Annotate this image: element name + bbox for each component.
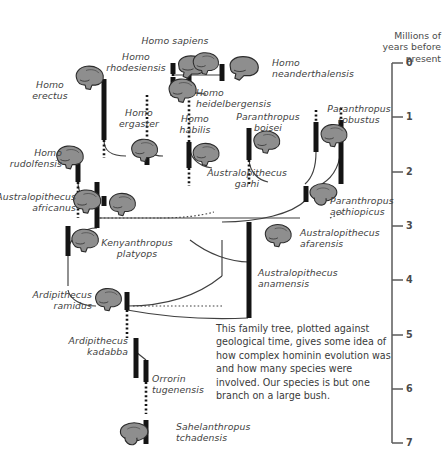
label-ardipithecus-kadabba: Ardipithecus kadabba <box>40 336 128 357</box>
skull-homo-ergaster <box>132 139 158 161</box>
label-australopithecus-garhi: Australopithecus garhi <box>196 168 298 189</box>
tick-label-1: 1 <box>406 111 413 122</box>
label-homo-heidelbergensis: Homo heidelbergensis <box>196 88 308 109</box>
label-paranthropus-aethiopicus: Paranthropus aethiopicus <box>330 196 426 217</box>
family-tree-figure: Millions of years before present 0 1 2 3… <box>0 0 447 473</box>
skull-ardipithecus-ramidus <box>96 289 122 311</box>
label-ardipithecus-ramidus: Ardipithecus ramidus <box>6 290 92 311</box>
skull-homo-neanderthalensis <box>230 57 258 80</box>
tick-label-4: 4 <box>406 274 413 285</box>
skull-australopithecus-garhi <box>110 193 136 215</box>
tick-label-6: 6 <box>406 383 413 394</box>
label-homo-neanderthalensis: Homo neanderthalensis <box>272 58 378 79</box>
label-homo-rhodesiensis: Homo rhodesiensis <box>94 52 178 73</box>
tick-label-7: 7 <box>406 437 413 448</box>
tick-label-0: 0 <box>406 57 413 68</box>
label-homo-habilis: Homo habilis <box>166 114 224 135</box>
label-paranthropus-boisei: Paranthropus boisei <box>222 112 314 133</box>
label-sahelanthropus-tchadensis: Sahelanthropus tchadensis <box>176 422 276 443</box>
label-homo-rudolfensis: Homo rudolfensis <box>0 148 62 169</box>
skull-homo-heidelbergensis <box>169 79 196 102</box>
label-kenyanthropus-platyops: Kenyanthropus platyops <box>88 238 186 259</box>
tick-label-2: 2 <box>406 166 413 177</box>
label-homo-sapiens: Homo sapiens <box>128 36 222 47</box>
label-paranthropus-robustus: Paranthropus robustus <box>314 104 404 125</box>
tick-label-3: 3 <box>406 220 413 231</box>
skull-paranthropus-boisei <box>254 131 280 153</box>
label-orrorin-tugenensis: Orrorin tugenensis <box>152 374 224 395</box>
label-australopithecus-afarensis: Australopithecus afarensis <box>300 228 404 249</box>
label-homo-erectus: Homo erectus <box>18 80 82 101</box>
tick-label-5: 5 <box>406 329 413 340</box>
label-australopithecus-anamensis: Australopithecus anamensis <box>258 268 362 289</box>
label-homo-ergaster: Homo ergaster <box>106 108 172 129</box>
skull-australopithecus-afarensis <box>265 225 291 247</box>
label-australopithecus-africanus: Australopithecus africanus <box>0 192 76 213</box>
figure-caption: This family tree, plotted against geolog… <box>216 322 392 402</box>
